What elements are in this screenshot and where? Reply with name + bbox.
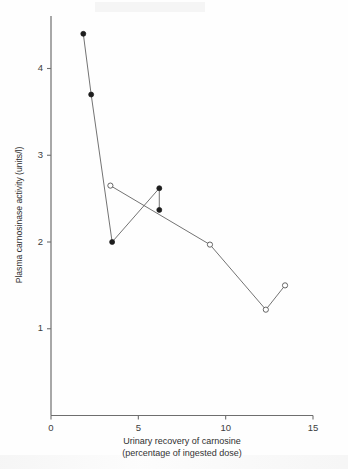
data-point-open xyxy=(207,242,212,247)
x-axis-title-line2: (percentage of ingested dose) xyxy=(122,448,242,458)
x-tick-label: 15 xyxy=(308,422,319,433)
x-tick-label: 5 xyxy=(136,422,141,433)
data-point-filled xyxy=(157,186,162,191)
y-tick-label: 3 xyxy=(38,149,43,160)
x-tick-label: 0 xyxy=(48,422,53,433)
series-line-filled-circle-subject xyxy=(83,34,159,242)
y-tick-label: 1 xyxy=(38,322,43,333)
data-point-filled xyxy=(89,92,94,97)
y-axis-ticks: 1234 xyxy=(38,62,51,333)
y-tick-label: 4 xyxy=(38,62,43,73)
series-lines xyxy=(83,34,285,310)
y-axis-title: Plasma carnosinase activity (units/l) xyxy=(14,147,24,284)
data-point-filled xyxy=(157,207,162,212)
series-line-open-circle-subject xyxy=(110,186,285,310)
data-point-filled xyxy=(110,240,115,245)
x-tick-label: 10 xyxy=(220,422,231,433)
x-axis-title-line1: Urinary recovery of carnosine xyxy=(123,436,241,446)
y-tick-label: 2 xyxy=(38,236,43,247)
x-axis-ticks: 051015 xyxy=(48,416,318,433)
data-point-open xyxy=(108,183,113,188)
data-point-open xyxy=(282,283,287,288)
chart-container: 1234 051015 Urinary recovery of carnosin… xyxy=(0,0,348,469)
series-markers xyxy=(81,31,288,312)
data-point-filled xyxy=(81,31,86,36)
data-point-open xyxy=(263,307,268,312)
plot-area: 1234 051015 Urinary recovery of carnosin… xyxy=(0,0,348,469)
